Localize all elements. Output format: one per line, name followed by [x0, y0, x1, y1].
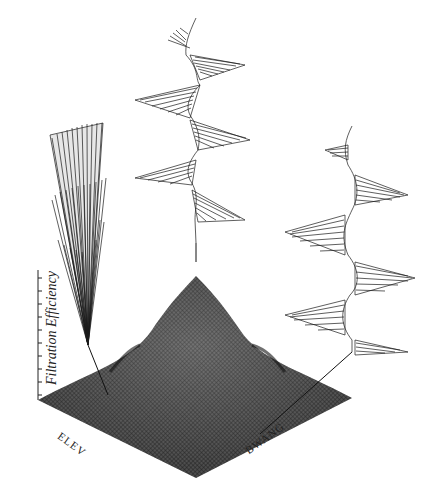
- z-axis: [38, 270, 42, 400]
- figure: Filtration Efficiency ELEV BWANG: [0, 0, 434, 486]
- right-inset-zigzag: [285, 126, 415, 355]
- figure-canvas: [0, 0, 434, 486]
- z-axis-label: Filtration Efficiency: [44, 258, 60, 398]
- top-inset-helix: [135, 18, 250, 243]
